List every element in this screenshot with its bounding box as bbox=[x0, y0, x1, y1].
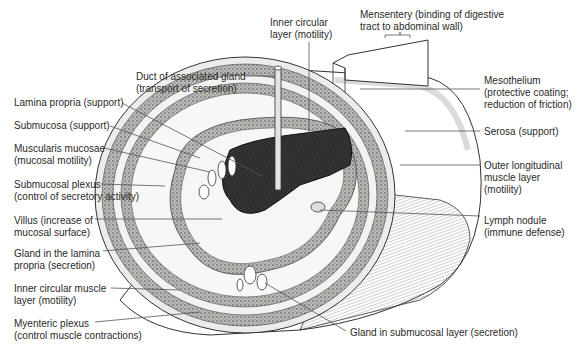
label-inner-circular-layer: Inner circular layer (motility) bbox=[270, 17, 332, 41]
label-duct-associated-gland: Duct of associated gland (transport of s… bbox=[136, 71, 246, 95]
label-serosa: Serosa (support) bbox=[484, 126, 558, 138]
label-lymph-nodule: Lymph nodule (immune defense) bbox=[484, 215, 565, 239]
label-lamina-propria: Lamina propria (support) bbox=[14, 97, 124, 109]
label-mesothelium: Mesothelium (protective coating; reducti… bbox=[484, 75, 572, 111]
label-submucosal-plexus: Submucosal plexus (control of secretory … bbox=[14, 179, 139, 203]
label-muscularis-mucosae: Muscularis mucosae (mucosal motility) bbox=[14, 143, 105, 167]
label-outer-longitudinal-muscle: Outer longitudinal muscle layer (motilit… bbox=[484, 160, 562, 196]
label-mesentery: Mensentery (binding of digestive tract t… bbox=[360, 9, 504, 33]
label-myenteric-plexus: Myenteric plexus (control muscle contrac… bbox=[14, 318, 142, 342]
cut-face bbox=[95, 57, 395, 333]
label-villus: Villus (increase of mucosal surface) bbox=[14, 215, 93, 239]
duct bbox=[275, 66, 282, 190]
label-submucosa: Submucosa (support) bbox=[14, 120, 110, 132]
label-gland-lamina-propria: Gland in the lamina propria (secretion) bbox=[14, 248, 100, 272]
label-gland-submucosal-layer: Gland in submucosal layer (secretion) bbox=[350, 327, 518, 339]
label-inner-circular-muscle: Inner circular muscle layer (motility) bbox=[14, 283, 106, 307]
